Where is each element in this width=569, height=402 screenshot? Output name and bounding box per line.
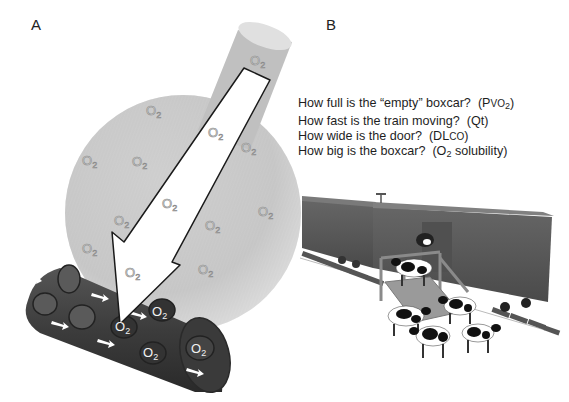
cow [409,326,450,358]
question-pvo2: How full is the “empty” boxcar? (PVO2) [298,96,514,114]
red-blood-cell [69,305,95,329]
question-dlco: How wide is the door? (DLCO) [298,129,514,144]
boxcar-train-illustration [300,194,560,358]
diagram-canvas: O2 O2 O2 O2 O2 O2 O2 O2 O2 O2 O2 O2 O2 O… [0,0,569,402]
cow [462,324,501,353]
question-o2-solubility: How big is the boxcar? (O2 solubility) [298,144,514,162]
panel-a-illustration: O2 O2 O2 O2 O2 O2 O2 O2 O2 O2 O2 O2 O2 O… [26,16,301,398]
cow [416,233,434,247]
question-qt: How fast is the train moving? (Qt) [298,114,514,129]
analogy-questions: How full is the “empty” boxcar? (PVO2) H… [298,96,514,162]
red-blood-cell [33,293,57,315]
red-blood-cell [58,265,80,293]
